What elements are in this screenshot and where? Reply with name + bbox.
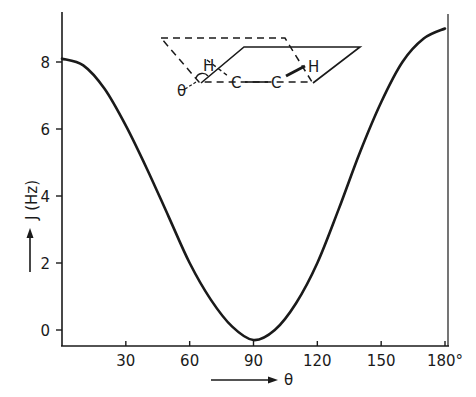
x-tick-label: 60 [180,352,199,370]
y-axis-label: J (Hz) [23,180,41,221]
data-curve [62,29,445,341]
y-tick-label: 4 [40,188,50,206]
y-axis-arrow-icon [27,228,34,272]
inset-c-right: C [271,74,281,92]
x-axis-arrow-icon [211,377,278,384]
inset-c-left: C [231,74,241,92]
x-tick-label: 30 [116,352,135,370]
y-tick-label: 6 [40,121,50,139]
y-ticks: 02468 [40,54,62,340]
x-tick-label: 150 [367,352,396,370]
x-tick-label: 180° [427,352,463,370]
x-axis-label: θ [284,371,293,389]
y-tick-label: 8 [40,54,50,72]
x-tick-label: 90 [244,352,263,370]
y-tick-label: 2 [40,255,50,273]
y-tick-label: 0 [40,322,50,340]
inset-h-right: H [308,58,319,76]
inset-theta: θ [177,82,186,100]
inset-h-left: H [203,57,214,75]
x-tick-label: 120 [303,352,332,370]
karplus-chart: 02468 306090120150180° J (Hz) θ H C C H … [0,0,476,397]
dihedral-inset-diagram: H C C H θ [161,38,360,100]
